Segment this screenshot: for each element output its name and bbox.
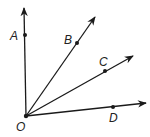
point-c — [103, 69, 107, 73]
diagram-canvas: O A B C D — [0, 0, 150, 137]
rays-diagram: O A B C D — [0, 0, 150, 137]
ray-od — [26, 103, 146, 116]
point-label-d: D — [109, 111, 118, 125]
vertex-point-o — [24, 114, 28, 118]
ray-oc — [26, 56, 133, 116]
ray-oa — [24, 8, 26, 116]
point-b — [75, 41, 79, 45]
point-a — [23, 33, 27, 37]
point-d — [111, 105, 115, 109]
point-label-b: B — [64, 33, 72, 47]
rays-group — [24, 8, 146, 116]
vertex-label-o: O — [16, 120, 25, 134]
ray-ob — [26, 17, 95, 116]
point-label-a: A — [9, 29, 18, 43]
point-label-c: C — [99, 55, 108, 69]
